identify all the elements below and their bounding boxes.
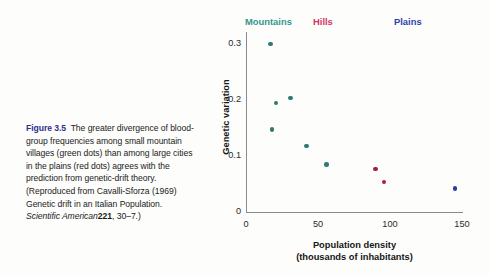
y-tick-label: 0.3: [215, 38, 241, 48]
data-point-mountains: [288, 96, 292, 100]
y-tick-label: 0.1: [215, 150, 241, 160]
data-point-plains: [453, 186, 457, 190]
legend-label-plains: Plains: [394, 16, 422, 27]
x-tick-label: 0: [231, 219, 261, 229]
x-axis-line: [246, 212, 463, 213]
x-tick-label: 100: [375, 219, 405, 229]
data-point-mountains: [324, 162, 328, 166]
x-axis-title-line1: Population density: [313, 240, 396, 250]
caption-body: The greater divergence of blood-group fr…: [26, 123, 194, 209]
figure-caption: Figure 3.5 The greater divergence of blo…: [26, 122, 198, 223]
scatter-chart: Genetic variation Population density (th…: [200, 0, 489, 276]
y-tick-label: 0.2: [215, 94, 241, 104]
figure-page: Figure 3.5 The greater divergence of blo…: [0, 0, 489, 276]
legend-label-hills: Hills: [313, 16, 333, 27]
y-tick-label: 0: [215, 206, 241, 216]
x-axis-title-line2: (thousands of inhabitants): [296, 252, 413, 262]
figure-number: Figure 3.5: [26, 123, 66, 133]
caption-pages: , 30–7.): [112, 211, 141, 221]
data-point-mountains: [274, 101, 278, 105]
x-axis-title: Population density (thousands of inhabit…: [246, 240, 463, 263]
x-tick-label: 50: [303, 219, 333, 229]
y-axis-line: [246, 32, 247, 213]
data-point-mountains: [268, 42, 272, 46]
caption-volume: 221: [98, 211, 112, 221]
data-point-mountains: [270, 127, 274, 131]
data-point-hills: [373, 167, 377, 171]
x-tick-label: 150: [447, 219, 477, 229]
caption-journal: Scientific American: [26, 211, 98, 221]
legend-label-mountains: Mountains: [245, 16, 292, 27]
data-point-hills: [382, 180, 386, 184]
data-point-mountains: [304, 144, 308, 148]
